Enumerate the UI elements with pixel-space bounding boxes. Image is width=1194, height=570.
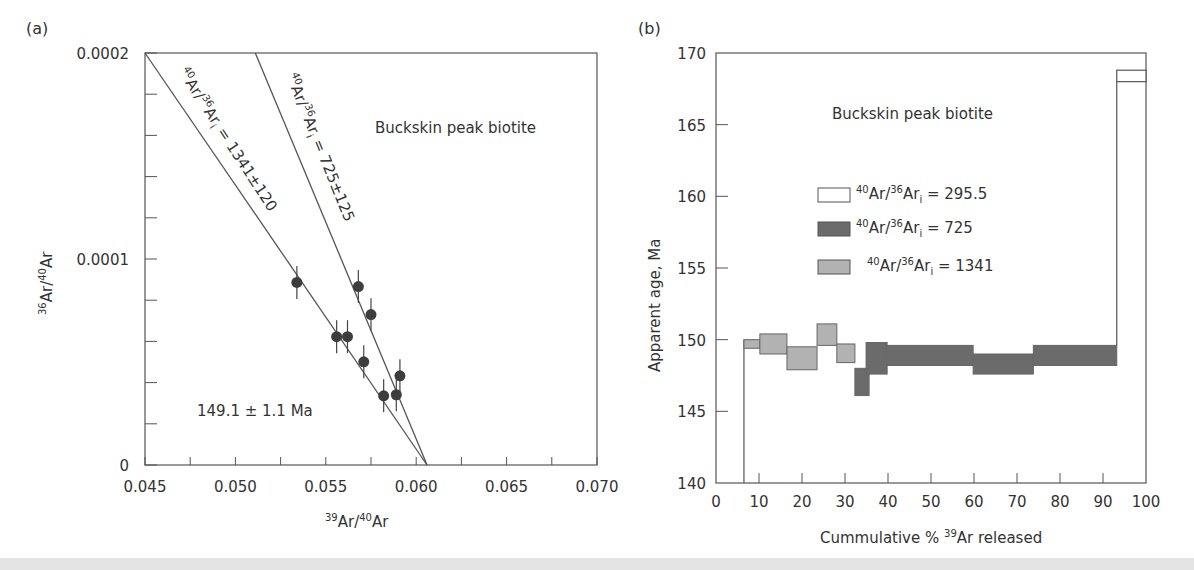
data-points [291, 266, 405, 412]
x-tick-label: 0.065 [485, 478, 528, 496]
data-point [342, 331, 353, 342]
y-axis-sup: 36 [37, 302, 48, 315]
y-tick-label: 165 [677, 117, 706, 135]
y-axis-title-a: 36Ar/40Ar [37, 251, 56, 315]
x-tick-label: 40 [878, 493, 897, 511]
step-1341 [787, 347, 817, 370]
x-tick-label: 100 [1132, 493, 1161, 511]
panel-label-a: (a) [26, 19, 48, 38]
y-tick-label: 150 [677, 332, 706, 350]
step-725 [1033, 345, 1116, 365]
x-tick-label: 70 [1007, 493, 1026, 511]
y-axis-title-b: Apparent age, Ma [646, 239, 664, 372]
legend-label-part: Ar [903, 185, 920, 203]
x-tick-label: 20 [792, 493, 811, 511]
y-tick-label: 140 [677, 475, 706, 493]
figure: (a) 0.0450.0500.0550.0600.0650.070 00.00… [0, 0, 1194, 570]
legend-label-part: 40 [867, 256, 880, 267]
legend-label-part: = 1341 [933, 257, 993, 275]
legend: 40Ar/36Ari = 295.540Ar/36Ari = 72540Ar/3… [818, 184, 993, 277]
legend-label-part: 36 [901, 256, 914, 267]
legend-label: 40Ar/36Ari = 295.5 [856, 184, 987, 205]
y-tick-label: 155 [677, 260, 706, 278]
x-tick-label: 10 [749, 493, 768, 511]
legend-label-part: 40 [856, 184, 869, 195]
chart-title-b: Buckskin peak biotite [832, 105, 993, 123]
step-1341 [817, 324, 837, 346]
x-tick-label: 0 [711, 493, 721, 511]
label-tail: = 725±125 [307, 132, 358, 224]
x-axis-sup: 39 [325, 512, 338, 523]
legend-item-1341: 40Ar/36Ari = 1341 [818, 256, 993, 277]
legend-label-part: 36 [890, 184, 903, 195]
legend-item-725: 40Ar/36Ari = 725 [818, 218, 973, 239]
legend-swatch [818, 260, 850, 274]
step-1341 [837, 344, 855, 363]
data-point [366, 309, 377, 320]
x-axis-title-b: Cummulative % 39Ar released [820, 528, 1042, 547]
x-tick-label: 90 [1093, 493, 1112, 511]
x-axis-base2: Ar [372, 513, 389, 531]
panel-label-b: (b) [638, 19, 661, 38]
y-ticks-b: 140145150155160165170 [677, 45, 728, 493]
data-point [391, 389, 402, 400]
step-1341 [760, 334, 787, 354]
legend-label-part: = 295.5 [922, 185, 987, 203]
legend-label-part: = 725 [922, 219, 973, 237]
x-tick-label: 0.050 [214, 478, 257, 496]
legend-label-part: Ar/ [869, 219, 891, 237]
step-1341 [744, 340, 760, 349]
x-tick-label: 0.045 [124, 478, 167, 496]
x-axis-sup: 39 [944, 528, 957, 539]
legend-item-295.5: 40Ar/36Ari = 295.5 [818, 184, 987, 205]
age-steps [744, 70, 1146, 483]
y-tick-label: 0 [119, 457, 129, 475]
x-axis-text: Cummulative % [820, 529, 944, 547]
step-295 [1117, 70, 1146, 81]
x-ticks-b: 0102030405060708090100 [711, 473, 1160, 511]
age-annotation: 149.1 ± 1.1 Ma [197, 402, 313, 420]
x-axis-tail: Ar released [957, 529, 1042, 547]
data-point [331, 331, 342, 342]
legend-label-part: Ar/ [880, 257, 902, 275]
y-axis-base2: Ar [38, 251, 56, 268]
data-point [291, 277, 302, 288]
y-tick-label: 170 [677, 45, 706, 63]
data-point [358, 356, 369, 367]
legend-label: 40Ar/36Ari = 725 [856, 218, 973, 239]
x-tick-label: 60 [964, 493, 983, 511]
isochron-label-1341: 40Ar/36Ari = 1341±120 [173, 64, 282, 216]
x-axis-base: Ar/ [338, 513, 360, 531]
y-axis-sup2: 40 [37, 268, 48, 281]
x-tick-label: 0.060 [395, 478, 438, 496]
x-ticks-a: 0.0450.0500.0550.0600.0650.070 [124, 457, 619, 496]
x-tick-label: 80 [1050, 493, 1069, 511]
legend-swatch [818, 222, 850, 236]
panel-a: (a) 0.0450.0500.0550.0600.0650.070 00.00… [26, 19, 618, 531]
legend-label-part: 36 [890, 218, 903, 229]
panel-b: (b) 0102030405060708090100 1401451501551… [638, 19, 1160, 547]
legend-label: 40Ar/36Ari = 1341 [867, 256, 993, 277]
x-tick-label: 30 [835, 493, 854, 511]
x-tick-label: 0.070 [576, 478, 619, 496]
step-725 [887, 345, 973, 365]
bottom-strip [0, 558, 1194, 570]
data-point [353, 281, 364, 292]
legend-label-part: Ar [914, 257, 931, 275]
chart-title-a: Buckskin peak biotite [375, 119, 536, 137]
data-point [378, 390, 389, 401]
y-tick-label: 160 [677, 188, 706, 206]
y-tick-label: 0.0001 [77, 251, 130, 269]
step-725 [973, 354, 1033, 374]
y-tick-label: 145 [677, 403, 706, 421]
y-axis-base: Ar/ [38, 280, 56, 302]
y-tick-label: 0.0002 [77, 45, 130, 63]
legend-swatch [818, 188, 850, 202]
legend-label-part: Ar [903, 219, 920, 237]
x-tick-label: 50 [921, 493, 940, 511]
step-725 [866, 343, 887, 375]
x-axis-title-a: 39Ar/40Ar [325, 512, 389, 531]
x-tick-label: 0.055 [304, 478, 347, 496]
isochron-label-725: 40Ar/36Ari = 725±125 [280, 70, 359, 224]
legend-label-part: 40 [856, 218, 869, 229]
